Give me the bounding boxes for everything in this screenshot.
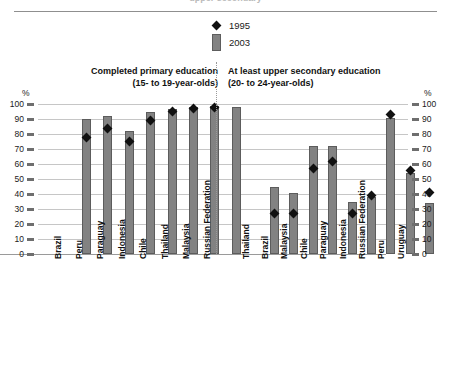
section-title-primary-line2: (15- to 19-year-olds): [60, 78, 218, 90]
x-axis-category-label: Russian Federation: [202, 180, 212, 259]
y-axis-tick-label-right: 60: [422, 160, 442, 168]
y-axis-tick-label-left: 70: [4, 145, 24, 153]
y-axis-tick-label-right: 50: [422, 175, 442, 183]
y-axis-tick-right: [412, 178, 419, 181]
y-axis-tick-right: [412, 148, 419, 151]
y-axis-tick-left: [27, 253, 34, 256]
x-axis-category-label: Brazil: [53, 236, 63, 259]
x-axis-category-label: Brazil: [260, 236, 270, 259]
y-axis-tick-label-left: 60: [4, 160, 24, 168]
y-axis-tick-right: [412, 253, 419, 256]
y-axis-tick-label-right: 0: [422, 250, 442, 258]
y-axis-tick-label-left: 50: [4, 175, 24, 183]
y-axis-tick-label-left: 90: [4, 115, 24, 123]
gridline: [38, 104, 408, 105]
y-axis-tick-left: [27, 163, 34, 166]
cut-off-page-title: upper secondary: [0, 0, 451, 3]
y-axis-tick-right: [412, 163, 419, 166]
x-axis-category-label: Indonesia: [338, 219, 348, 259]
section-title-secondary-education: At least upper secondary education (20- …: [228, 66, 418, 89]
x-axis-category-label: Peru: [74, 240, 84, 259]
y-axis-tick-label-left: 40: [4, 190, 24, 198]
y-axis-tick-label-right: 90: [422, 115, 442, 123]
diamond-marker-icon: [208, 22, 224, 29]
y-axis-tick-label-right: 20: [422, 220, 442, 228]
y-axis-tick-left: [27, 133, 34, 136]
panel-divider: [216, 62, 218, 254]
gridline: [38, 164, 408, 165]
y-axis-tick-left: [27, 193, 34, 196]
bar: [289, 193, 298, 255]
y-axis-tick-label-left: 100: [4, 100, 24, 108]
bar: [406, 173, 415, 254]
section-title-primary-line1: Completed primary education: [60, 66, 218, 78]
y-axis-tick-label-left: 20: [4, 220, 24, 228]
x-axis-category-label: Chile: [299, 238, 309, 259]
x-axis-category-label: Thailand: [241, 224, 251, 259]
bar: [270, 187, 279, 255]
bar: [367, 197, 376, 254]
y-axis-tick-left: [27, 118, 34, 121]
gridline: [38, 179, 408, 180]
x-axis-category-label: Paraguay: [95, 221, 105, 259]
y-axis-tick-left: [27, 238, 34, 241]
y-axis-tick-label-right: 100: [422, 100, 442, 108]
x-axis-category-label: Thailand: [160, 224, 170, 259]
gridline: [38, 119, 408, 120]
section-title-secondary-line1: At least upper secondary education: [228, 66, 418, 78]
x-axis-category-label: Malaysia: [279, 224, 289, 259]
x-axis-category-label: Malaysia: [181, 224, 191, 259]
y-axis-tick-right: [412, 223, 419, 226]
x-axis-category-label: Uruguay: [396, 225, 406, 259]
y-axis-tick-label-left: 10: [4, 235, 24, 243]
plot-area: [38, 104, 408, 254]
y-axis-unit-left: %: [22, 88, 30, 98]
y-axis-tick-label-right: 10: [422, 235, 442, 243]
legend-item-1995: 1995: [208, 17, 328, 34]
section-title-secondary-line2: (20- to 24-year-olds): [228, 78, 418, 90]
header-divider-rule: [14, 11, 437, 12]
gridline: [38, 134, 408, 135]
y-axis-tick-label-right: 70: [422, 145, 442, 153]
section-title-primary-education: Completed primary education (15- to 19-y…: [60, 66, 218, 89]
y-axis-tick-right: [412, 133, 419, 136]
y-axis-tick-left: [27, 178, 34, 181]
x-axis-category-label: Paraguay: [318, 221, 328, 259]
bar: [232, 107, 241, 254]
y-axis-tick-left: [27, 208, 34, 211]
x-axis-category-label: Russian Federation: [357, 180, 367, 259]
y-axis-tick-left: [27, 103, 34, 106]
y-axis-tick-left: [27, 148, 34, 151]
x-axis-category-label: Chile: [138, 238, 148, 259]
y-axis-tick-label-left: 30: [4, 205, 24, 213]
chart-legend: 1995 2003: [208, 17, 328, 51]
y-axis-tick-right: [412, 238, 419, 241]
bar: [146, 112, 155, 255]
bar: [386, 118, 395, 255]
y-axis-tick-label-right: 40: [422, 190, 442, 198]
y-axis-unit-right: %: [424, 88, 432, 98]
gridline: [38, 149, 408, 150]
legend-label-2003: 2003: [229, 37, 250, 48]
y-axis-tick-right: [412, 208, 419, 211]
legend-label-1995: 1995: [229, 20, 250, 31]
y-axis-tick-right: [412, 118, 419, 121]
legend-item-2003: 2003: [208, 34, 328, 51]
y-axis-tick-label-left: 0: [4, 250, 24, 258]
x-axis-category-label: Peru: [376, 240, 386, 259]
bar: [309, 146, 318, 254]
y-axis-tick-left: [27, 223, 34, 226]
x-axis-category-label: Indonesia: [117, 219, 127, 259]
y-axis-tick-label-right: 80: [422, 130, 442, 138]
y-axis-tick-right: [412, 103, 419, 106]
bar-swatch-icon: [208, 34, 224, 51]
y-axis-tick-label-left: 80: [4, 130, 24, 138]
gridline: [38, 194, 408, 195]
y-axis-tick-right: [412, 193, 419, 196]
y-axis-tick-label-right: 30: [422, 205, 442, 213]
